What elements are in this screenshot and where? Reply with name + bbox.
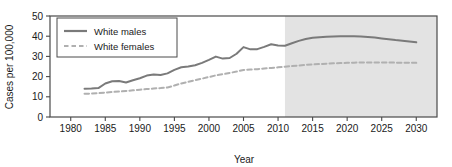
projection-band-rect — [285, 16, 437, 117]
chart-legend: White males White females — [57, 18, 177, 57]
x-tick-label: 1985 — [94, 123, 117, 134]
x-tick-label: 2000 — [198, 123, 221, 134]
x-tick-label: 2005 — [232, 123, 255, 134]
y-tick-label: 0 — [37, 112, 43, 123]
x-tick-label: 1990 — [129, 123, 152, 134]
line-chart: 01020304050 1980198519901995200020052010… — [0, 0, 452, 167]
y-tick-label: 50 — [32, 11, 44, 22]
x-tick-label: 1995 — [163, 123, 186, 134]
y-axis-title: Cases per 100,000 — [4, 24, 15, 109]
chart-container: 01020304050 1980198519901995200020052010… — [0, 0, 452, 167]
legend-label-white-males: White males — [94, 26, 147, 37]
projection-shaded-region — [285, 16, 437, 117]
x-tick-label: 2025 — [371, 123, 394, 134]
y-tick-label: 20 — [32, 71, 44, 82]
legend-label-white-females: White females — [94, 41, 154, 52]
y-tick-label: 40 — [32, 31, 44, 42]
x-tick-label: 1980 — [60, 123, 83, 134]
x-tick-label: 2015 — [301, 123, 324, 134]
x-tick-label: 2010 — [267, 123, 290, 134]
y-tick-label: 30 — [32, 51, 44, 62]
y-tick-label: 10 — [32, 91, 44, 102]
x-tick-label: 2020 — [336, 123, 359, 134]
x-tick-label: 2030 — [405, 123, 428, 134]
x-axis-title: Year — [234, 154, 255, 165]
